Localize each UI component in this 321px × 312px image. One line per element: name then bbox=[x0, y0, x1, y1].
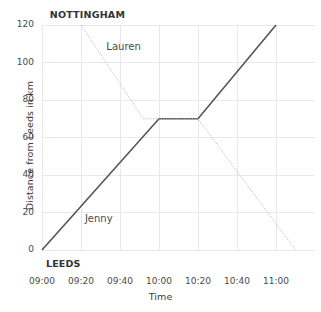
x-tick-1040: 10:40 bbox=[215, 276, 259, 286]
x-tick-1020: 10:20 bbox=[176, 276, 220, 286]
x-tick-1000: 10:00 bbox=[137, 276, 181, 286]
jenny-series-label: Jenny bbox=[85, 213, 113, 224]
lauren-series-label: Lauren bbox=[106, 41, 140, 52]
x-tick-0920: 09:20 bbox=[59, 276, 103, 286]
distance-time-chart: 020406080100120 09:0009:2009:4010:0010:2… bbox=[0, 0, 321, 312]
y-tick-120: 120 bbox=[0, 19, 34, 29]
x-tick-1100: 11:00 bbox=[254, 276, 298, 286]
y-axis-title: Distance from Leeds in km bbox=[24, 71, 35, 221]
nottingham-label: NOTTINGHAM bbox=[50, 9, 125, 20]
leeds-label: LEEDS bbox=[46, 258, 81, 269]
x-tick-0940: 09:40 bbox=[98, 276, 142, 286]
y-tick-0: 0 bbox=[0, 244, 34, 254]
x-axis-title: Time bbox=[0, 291, 321, 302]
gridlines bbox=[42, 25, 315, 250]
y-tick-100: 100 bbox=[0, 57, 34, 67]
x-tick-0900: 09:00 bbox=[20, 276, 64, 286]
